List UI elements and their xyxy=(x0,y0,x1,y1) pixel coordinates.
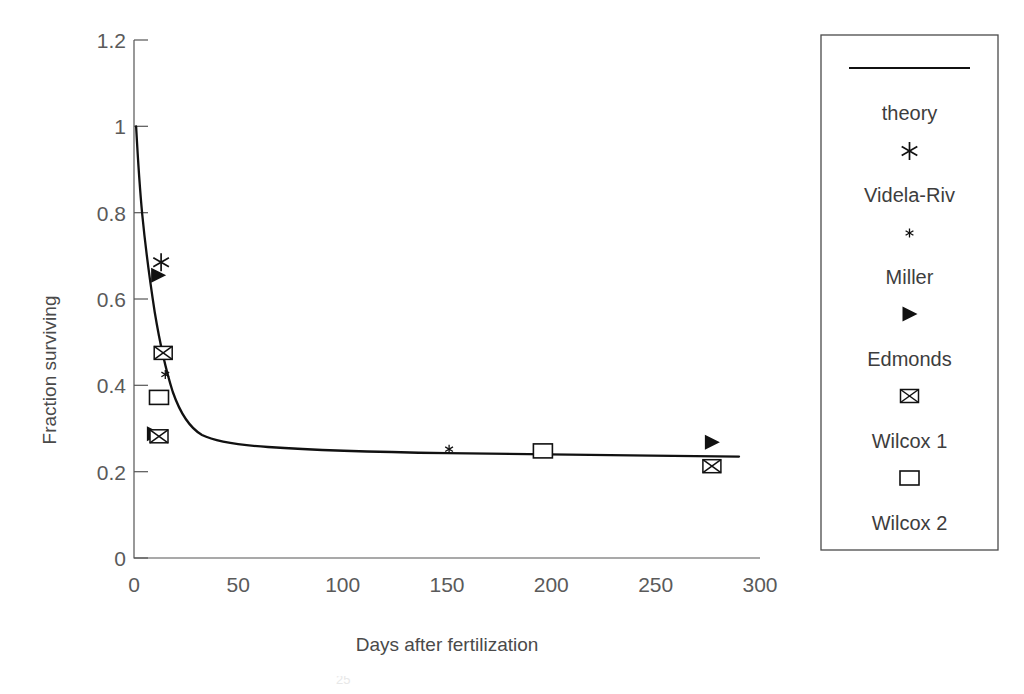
series-miller-points xyxy=(161,370,453,454)
x-axis-title: Days after fertilization xyxy=(356,634,539,655)
y-tick-label: 0.4 xyxy=(97,374,127,397)
x-tick-label: 50 xyxy=(227,573,250,596)
legend-label-edmonds: Edmonds xyxy=(867,348,952,370)
bottom-cutoff-artifact: 25 xyxy=(336,676,522,684)
axis-spines xyxy=(134,40,760,558)
legend-label-wilcox1: Wilcox 1 xyxy=(872,430,948,452)
marker-square-crossed xyxy=(150,430,168,443)
x-tick-label: 250 xyxy=(638,573,673,596)
x-axis-tick-labels: 0 50 100 150 200 250 300 xyxy=(128,573,777,596)
x-tick-label: 150 xyxy=(429,573,464,596)
legend-label-wilcox2: Wilcox 2 xyxy=(872,512,948,534)
series-videla-riv-points xyxy=(153,253,169,271)
series-wilcox2-points xyxy=(150,390,553,458)
marker-square-crossed xyxy=(703,460,721,473)
y-tick-label: 0.8 xyxy=(97,202,126,225)
legend: theory Videla-Riv Miller Edmonds Wilcox … xyxy=(821,35,998,550)
y-axis-ticks xyxy=(134,40,148,558)
x-tick-label: 0 xyxy=(128,573,140,596)
x-tick-label: 300 xyxy=(742,573,777,596)
series-theory-curve xyxy=(136,126,739,456)
marker-triangle-right xyxy=(151,268,166,283)
series-edmonds-points xyxy=(147,268,720,450)
y-tick-label: 0 xyxy=(114,547,126,570)
marker-square-crossed xyxy=(154,346,172,359)
marker-asterisk-six xyxy=(153,253,169,271)
marker-square-open xyxy=(533,444,552,458)
y-tick-label: 0.6 xyxy=(97,288,126,311)
legend-marker-square-crossed xyxy=(901,390,919,403)
x-tick-label: 100 xyxy=(325,573,360,596)
legend-label-videla-riv: Videla-Riv xyxy=(864,184,955,206)
y-axis-tick-labels: 0 0.2 0.4 0.6 0.8 1 1.2 xyxy=(97,29,127,570)
survival-curve-chart: 0 0.2 0.4 0.6 0.8 1 1.2 0 50 100 150 200… xyxy=(0,0,1024,694)
figure-canvas: 0 0.2 0.4 0.6 0.8 1 1.2 0 50 100 150 200… xyxy=(0,0,1024,694)
marker-square-open xyxy=(150,390,169,404)
y-tick-label: 1 xyxy=(114,115,126,138)
x-tick-label: 200 xyxy=(534,573,569,596)
legend-label-theory: theory xyxy=(882,102,938,124)
y-tick-label: 0.2 xyxy=(97,461,126,484)
theory-line xyxy=(136,126,739,456)
legend-marker-square-open xyxy=(900,471,919,485)
y-axis-title: Fraction surviving xyxy=(39,296,60,445)
marker-triangle-right xyxy=(705,435,720,450)
legend-label-miller: Miller xyxy=(886,266,934,288)
plot-axes: 0 0.2 0.4 0.6 0.8 1 1.2 0 50 100 150 200… xyxy=(39,29,778,655)
y-tick-label: 1.2 xyxy=(97,29,126,52)
